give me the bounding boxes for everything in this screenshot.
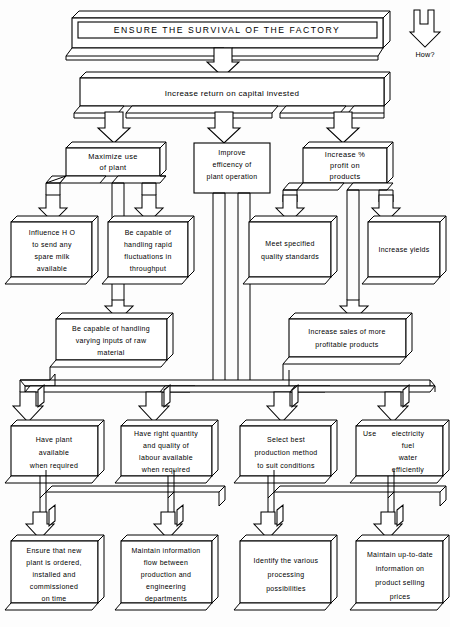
box-plant-available: Have plant available when required <box>5 420 104 483</box>
flowchart-canvas: How? ENSURE THE SURVIVAL OF THE FACTORY … <box>0 0 450 627</box>
level1-text: Increase return on capital invested <box>165 89 300 98</box>
newplant-l4: commissioned <box>30 583 78 590</box>
infoflow-l3: production and <box>141 571 192 579</box>
maximize-plant-line1: Maximize use <box>88 152 137 161</box>
improve-line2: efficency of <box>213 161 252 169</box>
box-new-plant-ordered: Ensure that new plant is ordered, instal… <box>5 535 104 610</box>
utilities-l4: efficiently <box>392 466 425 474</box>
fluct-l3: fluctuations in <box>124 253 171 260</box>
method-l1: Select best <box>267 436 305 443</box>
infoflow-l2: flow between <box>144 559 188 566</box>
newplant-l5: on time <box>41 595 66 602</box>
varying-l1: Be capable of handling <box>72 325 150 333</box>
box-selling-prices: Maintain up-to-date information on produ… <box>350 535 449 610</box>
arrows-to-level6 <box>26 505 403 539</box>
processing-l3: possibilities <box>266 585 306 593</box>
labour-l4: when required <box>141 466 190 474</box>
processing-l2: processing <box>268 571 305 579</box>
fluct-l2: handling rapid <box>124 241 172 249</box>
prices-l4: prices <box>390 593 411 601</box>
profit-line1: Increase % <box>325 150 366 159</box>
legend-label: How? <box>415 50 434 59</box>
profit-line3: products <box>329 172 360 181</box>
title-text: ENSURE THE SURVIVAL OF THE FACTORY <box>114 25 340 35</box>
processing-l1: Identify the various <box>254 557 319 565</box>
prices-l3: product selling <box>375 579 425 587</box>
method-l2: production method <box>254 449 317 457</box>
box-information-flow: Maintain information flow between produc… <box>115 535 218 610</box>
influence-l1: Influence H O <box>29 229 76 236</box>
box-labour-available: Have right quantity and quality of labou… <box>115 420 218 483</box>
fluct-l4: throughput <box>130 265 166 273</box>
box-best-production-method: Select best production method to suit co… <box>234 420 337 483</box>
box-increase-yields: Increase yields <box>362 216 446 284</box>
labour-l1: Have right quantity <box>134 430 198 438</box>
method-l3: to suit conditions <box>257 462 315 469</box>
box-varying-inputs: Be capable of handling varying inputs of… <box>50 313 173 367</box>
box-influence-ho: Influence H O to send any spare milk ava… <box>5 216 98 284</box>
varying-l2: varying inputs of raw <box>76 337 147 345</box>
newplant-l1: Ensure that new <box>26 547 82 554</box>
box-handle-fluctuations: Be capable of handling rapid fluctuation… <box>102 216 194 284</box>
improve-line1: Improve <box>218 149 245 157</box>
labour-l2: and quality of <box>143 442 189 450</box>
sales-l1: Increase sales of more <box>308 328 385 335</box>
profit-line2: profit on <box>330 161 360 170</box>
infoflow-l4: engineering <box>146 583 186 591</box>
quality-l2: quality standards <box>261 253 319 261</box>
sales-l2: profitable products <box>315 341 378 349</box>
plantav-l2: available <box>39 449 69 456</box>
connector-ribbons <box>25 386 435 392</box>
maximize-plant-line2: of plant <box>99 163 126 172</box>
utilities-l1: electricity <box>392 430 425 438</box>
box-quality-standards: Meet specified quality standards <box>243 216 337 284</box>
fluct-l1: Be capable of <box>125 229 172 237</box>
box-processing-possibilities: Identify the various processing possibil… <box>234 535 337 610</box>
labour-l3: labour available <box>139 454 193 461</box>
legend-how: How? <box>410 10 440 59</box>
utilities-label-use: Use <box>363 430 376 437</box>
prices-l2: information on <box>376 565 425 572</box>
infoflow-l5: departments <box>145 595 187 603</box>
prices-l1: Maintain up-to-date <box>367 551 433 559</box>
influence-l3: spare milk <box>35 253 70 261</box>
newplant-l2: plant is ordered, <box>26 559 81 567</box>
plantav-l1: Have plant <box>36 436 72 444</box>
box-increase-sales: Increase sales of more profitable produc… <box>283 313 412 364</box>
improve-line3: plant operation <box>207 173 258 181</box>
quality-l1: Meet specified <box>265 240 314 248</box>
flowchart-diagram: How? ENSURE THE SURVIVAL OF THE FACTORY … <box>0 0 450 627</box>
influence-l2: to send any <box>32 241 72 249</box>
box-increase-return: Increase return on capital invested <box>74 72 390 118</box>
arrows-return-to-level2 <box>98 112 359 143</box>
yields-l1: Increase yields <box>378 246 429 254</box>
utilities-l2: fuel <box>402 442 415 449</box>
infoflow-l1: Maintain information <box>131 547 200 554</box>
newplant-l3: installed and <box>32 571 75 578</box>
influence-l4: available <box>37 265 67 272</box>
plantav-l3: when required <box>29 462 78 470</box>
varying-l3: material <box>97 349 124 356</box>
box-use-utilities: Use electricity fuel water efficiently <box>350 420 449 483</box>
utilities-l3: water <box>398 454 418 461</box>
